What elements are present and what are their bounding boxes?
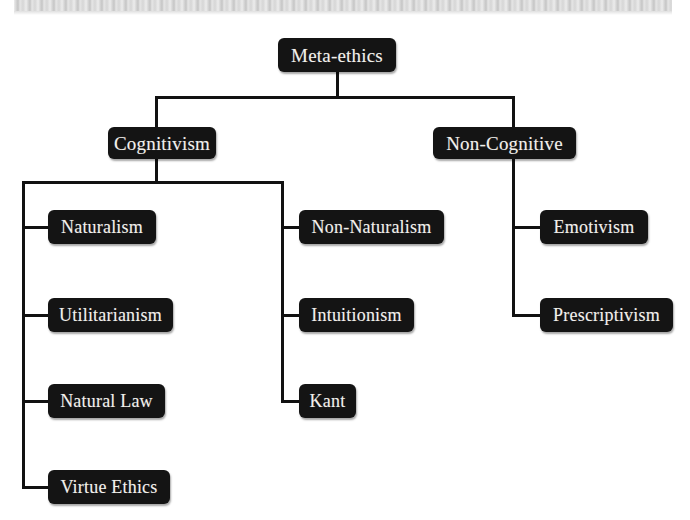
node-label: Natural Law: [60, 392, 153, 410]
node-virtue-ethics[interactable]: Virtue Ethics: [48, 470, 170, 504]
node-label: Prescriptivism: [553, 306, 660, 324]
node-label: Non-Cognitive: [446, 134, 563, 153]
node-label: Kant: [310, 392, 346, 410]
connector-cognitivism-stem: [155, 159, 158, 183]
stub-prescriptivism: [512, 314, 542, 317]
stub-intuitionism: [281, 314, 301, 317]
spine-non-cognitive: [512, 159, 515, 316]
node-intuitionism[interactable]: Intuitionism: [299, 298, 414, 332]
stub-natural-law: [22, 400, 50, 403]
node-label: Non-Naturalism: [312, 218, 432, 236]
node-emotivism[interactable]: Emotivism: [540, 210, 648, 244]
connector-to-non-cognitive: [512, 96, 515, 128]
node-label: Meta-ethics: [291, 46, 383, 65]
connector-root-stem: [336, 72, 339, 99]
stub-virtue-ethics: [22, 486, 50, 489]
scan-artifact-fade: [14, 11, 672, 15]
stub-naturalism: [22, 226, 50, 229]
connector-cognitivism-bus: [22, 181, 284, 184]
node-natural-law[interactable]: Natural Law: [48, 384, 165, 418]
node-naturalism[interactable]: Naturalism: [48, 210, 156, 244]
diagram-canvas: Meta-ethics Cognitivism Non-Cognitive Na…: [0, 0, 690, 520]
stub-emotivism: [512, 226, 542, 229]
node-label: Intuitionism: [311, 306, 401, 324]
spine-cognitivism-right: [281, 181, 284, 402]
node-utilitarianism[interactable]: Utilitarianism: [48, 298, 173, 332]
node-cognitivism[interactable]: Cognitivism: [108, 127, 216, 159]
node-prescriptivism[interactable]: Prescriptivism: [540, 298, 673, 332]
node-meta-ethics[interactable]: Meta-ethics: [278, 38, 396, 72]
node-label: Cognitivism: [114, 134, 210, 153]
node-kant[interactable]: Kant: [299, 384, 356, 418]
node-label: Utilitarianism: [59, 306, 162, 324]
node-label: Naturalism: [61, 218, 143, 236]
node-non-cognitive[interactable]: Non-Cognitive: [433, 127, 576, 159]
connector-to-cognitivism: [155, 96, 158, 128]
connector-level1-bus: [155, 96, 514, 99]
node-label: Emotivism: [554, 218, 635, 236]
stub-kant: [281, 400, 301, 403]
stub-utilitarianism: [22, 314, 50, 317]
scan-artifact-band: [14, 0, 672, 11]
node-label: Virtue Ethics: [61, 478, 158, 496]
stub-non-naturalism: [281, 226, 301, 229]
node-non-naturalism[interactable]: Non-Naturalism: [299, 210, 444, 244]
